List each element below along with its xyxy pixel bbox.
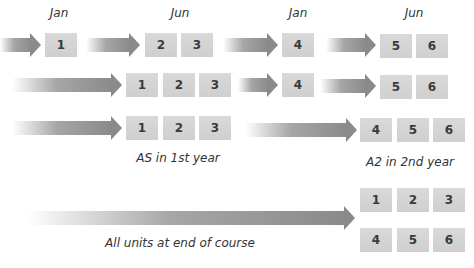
unit-box-1: 1: [45, 33, 77, 57]
arrow-icon: [320, 74, 376, 98]
unit-box-2: 2: [397, 188, 429, 212]
unit-box-2: 2: [145, 33, 177, 57]
unit-box-5: 5: [397, 228, 429, 252]
unit-box-3: 3: [199, 116, 231, 140]
unit-box-4: 4: [360, 228, 392, 252]
arrow-icon: [86, 33, 140, 57]
month-label-jan-2: Jan: [289, 6, 308, 20]
unit-box-1: 1: [126, 73, 158, 97]
unit-box-4: 4: [282, 73, 314, 97]
caption-a2-second-year: A2 in 2nd year: [366, 155, 454, 169]
caption-as-first-year: AS in 1st year: [136, 151, 220, 165]
month-label-jun-2: Jun: [405, 6, 424, 20]
arrow-icon: [326, 33, 376, 57]
unit-box-6: 6: [416, 75, 448, 99]
arrow-icon: [0, 33, 41, 57]
unit-box-5: 5: [380, 34, 412, 58]
unit-box-4: 4: [360, 118, 392, 142]
unit-box-4: 4: [282, 33, 314, 57]
unit-box-5: 5: [397, 118, 429, 142]
arrow-icon: [12, 116, 122, 140]
month-label-jun-1: Jun: [171, 6, 190, 20]
unit-box-1: 1: [360, 188, 392, 212]
arrow-icon: [28, 206, 355, 230]
unit-box-2: 2: [163, 116, 195, 140]
arrow-icon: [245, 118, 357, 142]
unit-box-5: 5: [380, 75, 412, 99]
arrow-icon: [12, 73, 122, 97]
unit-box-6: 6: [433, 118, 465, 142]
unit-box-1: 1: [126, 116, 158, 140]
unit-box-6: 6: [433, 228, 465, 252]
unit-box-2: 2: [163, 73, 195, 97]
unit-box-3: 3: [199, 73, 231, 97]
arrow-icon: [223, 33, 278, 57]
arrow-icon: [238, 73, 278, 97]
unit-box-6: 6: [416, 34, 448, 58]
unit-box-3: 3: [181, 33, 213, 57]
caption-all-units-end: All units at end of course: [105, 236, 255, 250]
month-label-jan-1: Jan: [50, 6, 69, 20]
unit-box-3: 3: [433, 188, 465, 212]
